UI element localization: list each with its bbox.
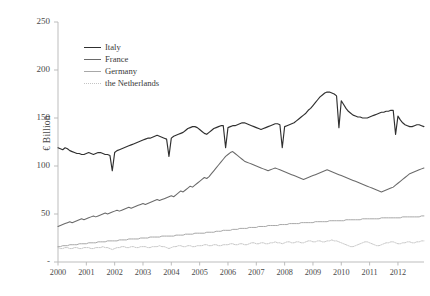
legend-swatch-icon	[84, 71, 101, 72]
y-tick-label: 250	[16, 16, 50, 26]
legend-label: the Netherlands	[105, 78, 159, 89]
plot-canvas	[0, 0, 430, 296]
series-line-germany	[58, 216, 424, 247]
legend-label: Germany	[105, 66, 137, 77]
y-tick-marks	[54, 22, 58, 262]
legend-label: Italy	[105, 42, 121, 53]
legend-swatch-icon	[84, 59, 101, 60]
legend-item-italy[interactable]: Italy	[84, 42, 159, 53]
line-chart-figure: € Billion -50100150200250 20002001200220…	[0, 0, 430, 296]
legend-swatch-icon	[84, 47, 101, 48]
y-tick-label: -	[16, 256, 50, 266]
chart-legend: ItalyFranceGermanythe Netherlands	[84, 42, 159, 90]
x-tick-label: 2012	[378, 268, 418, 277]
legend-item-germany[interactable]: Germany	[84, 66, 159, 77]
y-tick-label: 100	[16, 160, 50, 170]
legend-item-france[interactable]: France	[84, 54, 159, 65]
y-tick-label: 200	[16, 64, 50, 74]
y-tick-label: 150	[16, 112, 50, 122]
x-tick-marks	[58, 262, 398, 266]
legend-swatch-icon	[84, 83, 101, 84]
legend-label: France	[105, 54, 128, 65]
series-layer	[58, 92, 424, 249]
y-tick-label: 50	[16, 208, 50, 218]
legend-item-the-netherlands[interactable]: the Netherlands	[84, 78, 159, 89]
